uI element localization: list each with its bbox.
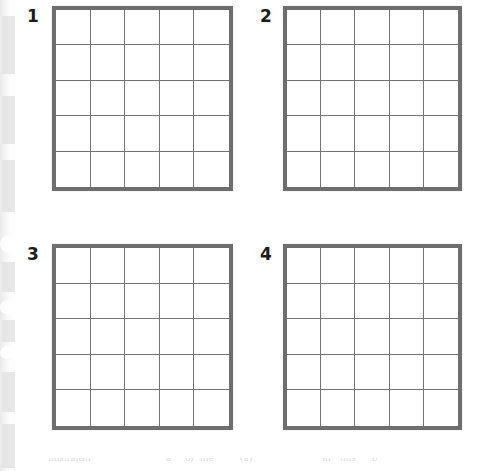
grid-cell[interactable] [125,152,160,187]
grid-cell[interactable] [287,152,321,187]
grid-cell[interactable] [56,355,91,391]
grid-cell[interactable] [56,81,91,116]
grid-cell[interactable] [194,10,229,45]
grid-cell[interactable] [424,390,458,426]
grid-cell[interactable] [56,284,91,320]
grid-cell[interactable] [287,355,321,391]
grid-cell[interactable] [287,284,321,320]
grid-cell[interactable] [390,284,424,320]
grid-cell[interactable] [56,116,91,151]
grid-cell[interactable] [355,81,389,116]
grid-1[interactable] [52,6,233,191]
grid-cell[interactable] [424,116,458,151]
grid-cell[interactable] [91,81,126,116]
grid-cell[interactable] [194,248,229,284]
grid-cell[interactable] [321,319,355,355]
grid-cell[interactable] [287,248,321,284]
grid-cell[interactable] [91,355,126,391]
grid-cell[interactable] [424,284,458,320]
grid-cell[interactable] [355,45,389,80]
grid-cell[interactable] [424,355,458,391]
grid-4[interactable] [283,244,462,430]
grid-cell[interactable] [56,152,91,187]
grid-cell[interactable] [424,248,458,284]
grid-2[interactable] [283,6,462,191]
grid-cell[interactable] [91,248,126,284]
grid-cell[interactable] [390,81,424,116]
grid-cell[interactable] [125,81,160,116]
grid-cell[interactable] [56,248,91,284]
grid-cell[interactable] [424,319,458,355]
grid-cell[interactable] [321,116,355,151]
grid-cell[interactable] [321,248,355,284]
grid-cell[interactable] [160,355,195,391]
grid-cell[interactable] [125,390,160,426]
grid-cell[interactable] [390,10,424,45]
grid-cell[interactable] [390,355,424,391]
grid-cell[interactable] [160,10,195,45]
grid-cell[interactable] [321,355,355,391]
grid-cell[interactable] [355,116,389,151]
grid-cell[interactable] [91,390,126,426]
grid-cell[interactable] [194,355,229,391]
grid-cell[interactable] [160,81,195,116]
grid-cell[interactable] [194,284,229,320]
grid-cell[interactable] [287,81,321,116]
grid-cell[interactable] [390,248,424,284]
grid-cell[interactable] [424,45,458,80]
grid-cell[interactable] [355,248,389,284]
grid-cell[interactable] [287,319,321,355]
grid-cell[interactable] [125,45,160,80]
grid-3[interactable] [52,244,233,430]
grid-cell[interactable] [321,284,355,320]
grid-cell[interactable] [355,10,389,45]
grid-cell[interactable] [424,152,458,187]
grid-cell[interactable] [125,284,160,320]
grid-cell[interactable] [56,390,91,426]
grid-cell[interactable] [56,45,91,80]
grid-cell[interactable] [194,390,229,426]
grid-cell[interactable] [160,390,195,426]
grid-cell[interactable] [287,10,321,45]
grid-cell[interactable] [287,45,321,80]
grid-cell[interactable] [321,390,355,426]
grid-cell[interactable] [91,45,126,80]
grid-cell[interactable] [321,45,355,80]
grid-cell[interactable] [160,152,195,187]
grid-cell[interactable] [160,248,195,284]
grid-cell[interactable] [56,10,91,45]
grid-cell[interactable] [287,390,321,426]
grid-cell[interactable] [355,152,389,187]
grid-cell[interactable] [125,248,160,284]
grid-cell[interactable] [194,45,229,80]
grid-cell[interactable] [160,116,195,151]
grid-cell[interactable] [424,81,458,116]
grid-cell[interactable] [125,116,160,151]
grid-cell[interactable] [390,152,424,187]
grid-cell[interactable] [125,319,160,355]
grid-cell[interactable] [287,116,321,151]
grid-cell[interactable] [160,45,195,80]
grid-cell[interactable] [390,390,424,426]
grid-cell[interactable] [91,116,126,151]
grid-cell[interactable] [194,319,229,355]
grid-cell[interactable] [321,81,355,116]
grid-cell[interactable] [91,284,126,320]
grid-cell[interactable] [321,152,355,187]
grid-cell[interactable] [355,319,389,355]
grid-cell[interactable] [355,284,389,320]
grid-cell[interactable] [424,10,458,45]
grid-cell[interactable] [91,152,126,187]
grid-cell[interactable] [390,116,424,151]
grid-cell[interactable] [91,10,126,45]
grid-cell[interactable] [355,390,389,426]
grid-cell[interactable] [125,355,160,391]
grid-cell[interactable] [125,10,160,45]
grid-cell[interactable] [194,152,229,187]
grid-cell[interactable] [355,355,389,391]
grid-cell[interactable] [160,319,195,355]
grid-cell[interactable] [194,116,229,151]
grid-cell[interactable] [194,81,229,116]
grid-cell[interactable] [160,284,195,320]
grid-cell[interactable] [91,319,126,355]
